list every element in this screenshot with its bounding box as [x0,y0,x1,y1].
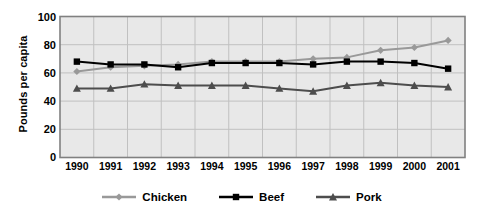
legend-label: Beef [259,191,284,203]
data-point-marker [209,60,215,66]
data-point-marker [411,60,417,66]
legend-entry-pork[interactable]: Pork [314,191,382,203]
x-tick-label: 2001 [428,160,468,173]
triangle-marker-icon [314,191,352,203]
legend-label: Pork [356,191,382,203]
data-point-marker [377,58,383,64]
data-point-marker [116,193,123,200]
data-point-marker [233,194,239,200]
data-point-marker [107,61,113,67]
data-point-marker [276,60,282,66]
legend-entry-chicken[interactable]: Chicken [100,191,187,203]
diamond-marker-icon [100,191,138,203]
data-point-marker [74,58,80,64]
legend-entry-beef[interactable]: Beef [217,191,284,203]
line-chart: Pounds per capita 100 80 60 40 20 0 1990… [0,0,482,213]
chart-legend: ChickenBeefPork [0,186,482,208]
plot-area [0,0,482,213]
square-marker-icon [217,191,255,203]
x-axis-tick-labels: 1990199119921993199419951996199719981999… [0,160,482,176]
data-point-marker [242,60,248,66]
legend-label: Chicken [142,191,187,203]
data-point-marker [141,61,147,67]
data-point-marker [344,58,350,64]
data-point-marker [445,65,451,71]
data-point-marker [175,64,181,70]
data-point-marker [310,61,316,67]
